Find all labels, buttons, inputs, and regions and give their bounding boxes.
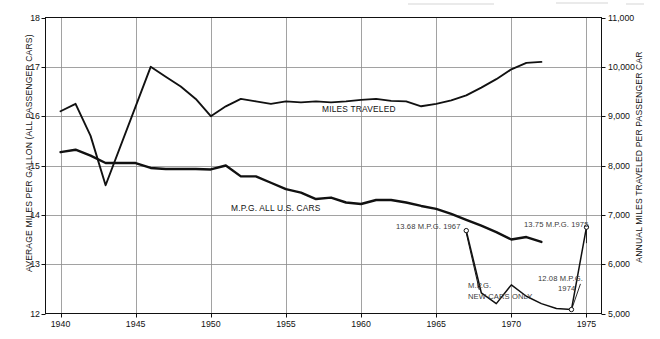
y-left-tick-15: 15 xyxy=(18,161,40,171)
series-lines xyxy=(61,62,589,312)
annotation-1975: 13.75 M.P.G. 1975 xyxy=(524,220,588,229)
y-left-tick-13: 13 xyxy=(18,259,40,269)
annotation-1967: 13.68 M.P.G. 1967 xyxy=(396,222,460,231)
y-right-tick-10000: 10,000 xyxy=(608,62,642,72)
series-label-miles-traveled: MILES TRAVELED xyxy=(322,104,396,114)
y-right-tick-7000: 7,000 xyxy=(608,210,642,220)
x-tick-1945: 1945 xyxy=(116,319,156,329)
x-tick-1960: 1960 xyxy=(341,319,381,329)
y-axis-left-title: AVERAGE MILES PER GALLON (ALL PASSENGER … xyxy=(24,42,34,272)
y-right-tick-9000: 9,000 xyxy=(608,111,642,121)
x-tick-1940: 1940 xyxy=(41,319,81,329)
y-axis-right-title: ANNUAL MILES TRAVELED PER PASSENGER CAR xyxy=(634,42,644,272)
x-tick-1965: 1965 xyxy=(416,319,456,329)
chart-canvas: AVERAGE MILES PER GALLON (ALL PASSENGER … xyxy=(0,0,660,339)
y-right-tick-8000: 8,000 xyxy=(608,161,642,171)
gridlines xyxy=(46,18,602,314)
y-left-tick-17: 17 xyxy=(18,62,40,72)
series-label-mpg-all-us-cars: M.P.G. ALL U.S. CARS xyxy=(231,203,321,213)
annotation-1974-line2: 1974 xyxy=(558,284,575,294)
y-left-tick-12: 12 xyxy=(18,309,40,319)
label-new-cars-line2: NEW CARS ONLY xyxy=(468,292,532,302)
x-tick-1975: 1975 xyxy=(566,319,606,329)
y-right-tick-11000: 11,000 xyxy=(608,13,642,23)
x-tick-1950: 1950 xyxy=(191,319,231,329)
annotation-1974-line1: 12.08 M.P.G. xyxy=(538,274,583,284)
y-left-tick-16: 16 xyxy=(18,111,40,121)
y-left-tick-18: 18 xyxy=(18,13,40,23)
axis-ticks xyxy=(42,19,606,318)
y-right-tick-5000: 5,000 xyxy=(608,309,642,319)
x-tick-1970: 1970 xyxy=(491,319,531,329)
y-left-tick-14: 14 xyxy=(18,210,40,220)
plot-frame xyxy=(46,18,602,314)
y-right-tick-6000: 6,000 xyxy=(608,259,642,269)
label-new-cars-line1: M.P.G. xyxy=(468,281,491,291)
x-tick-1955: 1955 xyxy=(266,319,306,329)
